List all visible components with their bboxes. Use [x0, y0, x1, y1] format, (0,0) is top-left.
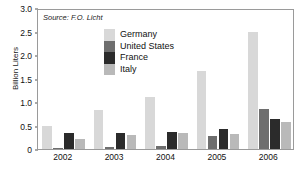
x-tick-label-2005: 2005 — [207, 152, 226, 162]
bar-united-states-2004 — [156, 146, 166, 149]
y-tick-label: 2.5 — [6, 28, 32, 38]
y-tick-label: 1.5 — [6, 75, 32, 85]
bar-italy-2006 — [281, 122, 291, 149]
bar-italy-2004 — [178, 133, 188, 149]
bar-united-states-2002 — [53, 148, 63, 149]
bar-chart: Billion Liters 00.51.01.52.02.53.0 Sourc… — [0, 0, 301, 179]
bar-france-2006 — [270, 119, 280, 149]
bar-france-2005 — [219, 129, 229, 149]
bar-france-2004 — [167, 132, 177, 149]
bar-united-states-2003 — [105, 147, 115, 149]
bar-group-2005 — [192, 10, 243, 149]
bar-germany-2006 — [248, 32, 258, 150]
bar-united-states-2006 — [259, 109, 269, 149]
y-tick-label: 1.0 — [6, 98, 32, 108]
plot-area: Source: F.O. Licht GermanyUnited StatesF… — [37, 9, 294, 150]
bar-italy-2005 — [230, 134, 240, 150]
x-tick-label-2004: 2004 — [156, 152, 175, 162]
y-tick-label: 0 — [6, 145, 32, 155]
bar-italy-2003 — [127, 135, 137, 149]
y-tick-label: 2.0 — [6, 51, 32, 61]
x-axis-tick-labels: 20022003200420052006 — [37, 152, 294, 168]
bar-group-2002 — [38, 10, 89, 149]
x-tick-label-2003: 2003 — [105, 152, 124, 162]
y-tick-label: 3.0 — [6, 4, 32, 14]
bar-united-states-2005 — [208, 136, 218, 149]
bar-group-2003 — [89, 10, 140, 149]
x-tick-label-2006: 2006 — [259, 152, 278, 162]
bar-france-2003 — [116, 133, 126, 149]
bar-group-2006 — [244, 10, 295, 149]
x-tick-label-2002: 2002 — [53, 152, 72, 162]
bar-germany-2004 — [145, 97, 155, 149]
y-axis-tick-labels: 00.51.01.52.02.53.0 — [6, 0, 32, 179]
bars-layer — [38, 10, 293, 149]
bar-france-2002 — [64, 133, 74, 149]
bar-germany-2003 — [94, 110, 104, 149]
bar-germany-2005 — [197, 71, 207, 149]
bar-germany-2002 — [42, 126, 52, 150]
y-tick-label: 0.5 — [6, 122, 32, 132]
bar-italy-2002 — [75, 139, 85, 149]
bar-group-2004 — [141, 10, 192, 149]
